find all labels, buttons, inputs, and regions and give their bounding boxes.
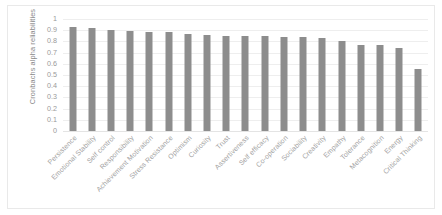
x-label-slot: Self efficacy xyxy=(255,132,274,208)
bar[interactable] xyxy=(88,28,95,131)
bar[interactable] xyxy=(127,31,134,131)
bar-slot xyxy=(63,19,82,131)
bar-slot xyxy=(82,19,101,131)
bar[interactable] xyxy=(357,45,364,131)
bar-slot xyxy=(217,19,236,131)
x-label-slot: Sociability xyxy=(294,132,313,208)
y-axis-tick-label: 0.1 xyxy=(47,116,57,123)
bar[interactable] xyxy=(108,30,115,131)
bar[interactable] xyxy=(204,35,211,131)
bar-slot xyxy=(178,19,197,131)
y-axis-tick-label: 0 xyxy=(53,127,57,134)
bar[interactable] xyxy=(146,32,153,131)
bar-slot xyxy=(236,19,255,131)
bar-slot xyxy=(370,19,389,131)
bar[interactable] xyxy=(261,36,268,131)
bar-slot xyxy=(294,19,313,131)
x-axis-tick-labels: PersistenceEmotional StabilitySelf contr… xyxy=(63,132,428,208)
bar[interactable] xyxy=(223,36,230,131)
x-label-slot: Critical Thinking xyxy=(409,132,428,208)
x-label-slot: Empathy xyxy=(332,132,351,208)
bar-slot xyxy=(313,19,332,131)
x-label-slot: Trust xyxy=(217,132,236,208)
x-label-slot: Tolerance xyxy=(351,132,370,208)
bar-slot xyxy=(197,19,216,131)
bar-slot xyxy=(101,19,120,131)
bar-slot xyxy=(159,19,178,131)
y-axis-tick-label: 0.4 xyxy=(47,83,57,90)
x-label-slot: Emotional Stability xyxy=(82,132,101,208)
bar-slot xyxy=(390,19,409,131)
y-axis-tick-label: 0.9 xyxy=(47,27,57,34)
y-axis-tick-label: 1 xyxy=(53,15,57,22)
bar-slot xyxy=(351,19,370,131)
bar-slot xyxy=(121,19,140,131)
bar[interactable] xyxy=(319,38,326,131)
bar-slot xyxy=(274,19,293,131)
y-axis-tick-label: 0.8 xyxy=(47,38,57,45)
bar[interactable] xyxy=(165,32,172,131)
y-axis-tick-label: 0.7 xyxy=(47,49,57,56)
bar-series xyxy=(63,19,428,131)
x-label-slot: Assertiveness xyxy=(236,132,255,208)
bar[interactable] xyxy=(300,37,307,131)
x-label-slot: Energy xyxy=(390,132,409,208)
bar[interactable] xyxy=(376,45,383,131)
bar[interactable] xyxy=(338,41,345,131)
plot-area xyxy=(63,19,428,131)
bar[interactable] xyxy=(242,36,249,131)
y-axis-tick-label: 0.2 xyxy=(47,105,57,112)
bar-slot xyxy=(255,19,274,131)
bar-slot xyxy=(332,19,351,131)
y-axis-tick-labels: 10.90.80.70.60.50.40.30.20.10 xyxy=(36,19,60,131)
x-label-slot: Curiosity xyxy=(197,132,216,208)
x-label-slot: Stress Resistance xyxy=(159,132,178,208)
x-label-slot: Co-operation xyxy=(274,132,293,208)
bar[interactable] xyxy=(184,34,191,131)
bar[interactable] xyxy=(396,48,403,131)
y-axis-tick-label: 0.5 xyxy=(47,71,57,78)
y-axis-tick-label: 0.3 xyxy=(47,94,57,101)
x-label-slot: Optimism xyxy=(178,132,197,208)
bar[interactable] xyxy=(69,27,76,131)
x-label-slot: Creativity xyxy=(313,132,332,208)
bar[interactable] xyxy=(280,37,287,131)
chart-container: Cronbachs alpha reliabilities 10.90.80.7… xyxy=(7,5,435,209)
x-axis-tick-label: Trust xyxy=(215,134,231,150)
bar[interactable] xyxy=(415,69,422,131)
bar-slot xyxy=(409,19,428,131)
y-axis-tick-label: 0.6 xyxy=(47,60,57,67)
bar-slot xyxy=(140,19,159,131)
